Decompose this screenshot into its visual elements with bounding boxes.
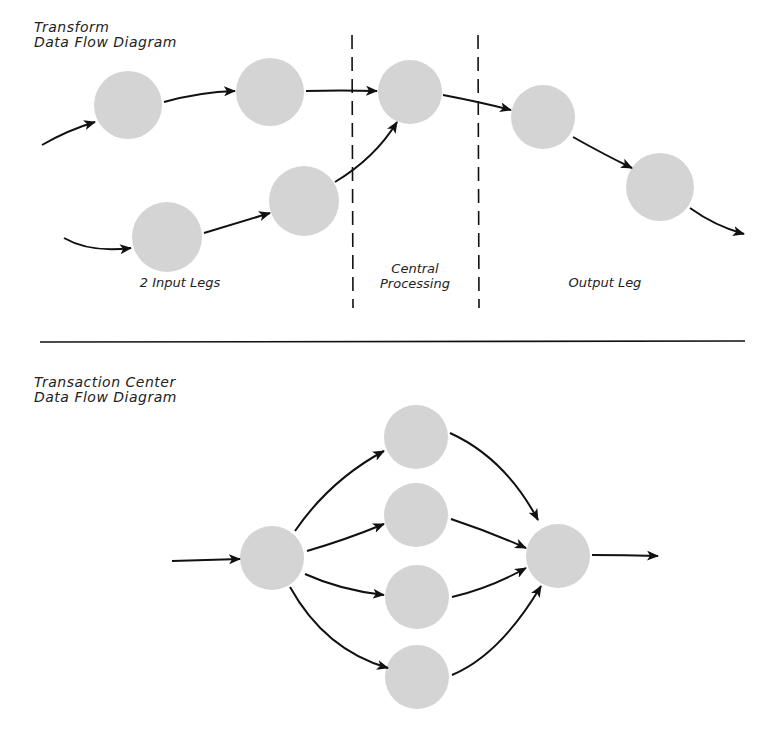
transform-nodes (94, 58, 694, 272)
node-merge (526, 524, 590, 588)
flow-center-t3 (305, 574, 384, 595)
flow-in-a (42, 122, 95, 145)
node-transaction-4 (385, 645, 449, 709)
node-input-a1 (94, 71, 162, 139)
node-transaction-2 (384, 483, 448, 547)
boundary-right-dashed (478, 35, 479, 308)
flow-t2-merge (451, 519, 526, 548)
flow-center-t1 (295, 451, 384, 531)
node-input-b2 (269, 166, 339, 236)
node-output-2 (626, 153, 694, 221)
node-output-1 (511, 85, 575, 149)
diagram-canvas (0, 0, 774, 735)
flow-out1-out2 (573, 137, 632, 168)
node-input-b1 (132, 202, 202, 272)
flow-b1-b2 (204, 213, 270, 233)
transaction-nodes (240, 405, 590, 709)
node-transaction-3 (385, 565, 449, 629)
section-divider (40, 341, 745, 342)
flow-center-t4 (290, 587, 388, 668)
flow-t1-merge (450, 433, 538, 520)
flow-in-b (64, 238, 131, 249)
flow-a2-central (306, 91, 377, 92)
flow-t3-merge (452, 568, 526, 597)
flow-b2-central (335, 122, 397, 182)
flow-t4-merge (452, 586, 541, 675)
node-transaction-center (240, 526, 304, 590)
node-central (378, 60, 442, 124)
flow-center-t2 (307, 524, 384, 551)
node-input-a2 (236, 58, 304, 126)
flow-merge-out (592, 555, 658, 556)
node-transaction-1 (384, 405, 448, 469)
flow-out2-exit (690, 208, 744, 234)
flow-in-center (172, 559, 240, 561)
flow-central-out1 (443, 95, 511, 110)
flow-a1-a2 (164, 91, 235, 102)
